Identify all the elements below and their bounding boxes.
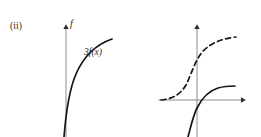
- panel-iii-graphic: [130, 0, 261, 137]
- curve-label-3fx: 3f(x): [84, 47, 102, 57]
- figure-root: (ii) f 3f(x) (iii) f x: [0, 0, 261, 137]
- axis-label-f-ii: f: [70, 18, 73, 29]
- panel-tag-ii: (ii): [10, 21, 22, 31]
- figure-panel-iii: (iii) f x f(x) f(x) – 4: [130, 0, 261, 137]
- curve-fx-minus-4: [188, 86, 235, 137]
- figure-panel-ii: (ii) f 3f(x): [0, 0, 130, 137]
- curve-fx-dashed: [161, 37, 236, 100]
